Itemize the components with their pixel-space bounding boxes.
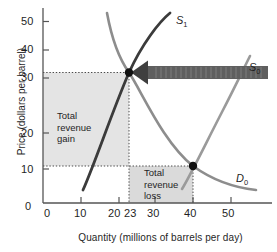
loss-label-line-1: Total — [144, 167, 178, 179]
supply-curve-shifted-label: S1 — [176, 14, 188, 29]
y-tick-label-10: 10 — [21, 164, 33, 176]
loss-label-line-3: loss — [144, 190, 178, 202]
supply-shift-arrow — [131, 61, 268, 85]
y-tick-label-0: 0 — [25, 201, 31, 213]
x-axis-title: Quantity (millions of barrels per day) — [48, 233, 273, 244]
x-tick-label-40: 40 — [184, 208, 196, 220]
s0-label-sub: 0 — [256, 67, 260, 76]
x-tick-label-10: 10 — [74, 208, 86, 220]
gain-label-line-3: gain — [57, 133, 91, 145]
economics-supply-demand-chart: Price (dollars per barrel) Quantity (mil… — [0, 0, 277, 252]
chart-plot-area — [0, 0, 277, 252]
x-tick-label-50: 50 — [222, 208, 234, 220]
gain-label-line-2: revenue — [57, 122, 91, 134]
x-tick-label-30: 30 — [147, 208, 159, 220]
y-tick-label-40: 40 — [21, 44, 33, 56]
x-tick-label-20: 20 — [108, 208, 120, 220]
d0-label-sub: 0 — [244, 178, 248, 187]
y-tick-label-30: 30 — [21, 72, 33, 84]
x-tick-label-0: 0 — [44, 208, 50, 220]
y-tick-label-20: 20 — [21, 128, 33, 140]
x-tick-label-23: 23 — [124, 208, 136, 220]
d0-label-base: D — [236, 172, 244, 184]
new-equilibrium-point — [125, 68, 133, 76]
total-revenue-gain-label: Total revenue gain — [57, 110, 91, 145]
gain-label-line-1: Total — [57, 110, 91, 122]
original-equilibrium-point — [189, 162, 197, 170]
y-tick-label-50: 50 — [21, 16, 33, 28]
supply-curve-original-label: S0 — [249, 61, 261, 76]
total-revenue-loss-label: Total revenue loss — [144, 167, 178, 202]
demand-curve-label: D0 — [236, 172, 248, 187]
s1-label-sub: 1 — [183, 20, 187, 29]
loss-label-line-2: revenue — [144, 179, 178, 191]
